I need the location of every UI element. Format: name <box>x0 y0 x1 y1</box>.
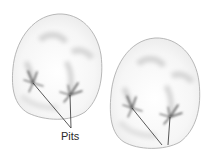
tooth-diagram <box>0 0 214 158</box>
left-tooth <box>12 14 101 119</box>
right-tooth <box>110 38 199 148</box>
pits-label: Pits <box>61 131 79 142</box>
